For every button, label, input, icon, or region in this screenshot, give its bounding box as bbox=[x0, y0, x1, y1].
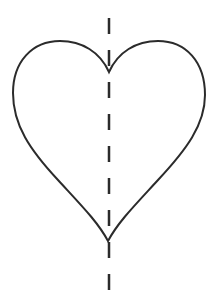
symmetry-diagram bbox=[0, 0, 214, 303]
heart-diagram bbox=[0, 0, 214, 303]
